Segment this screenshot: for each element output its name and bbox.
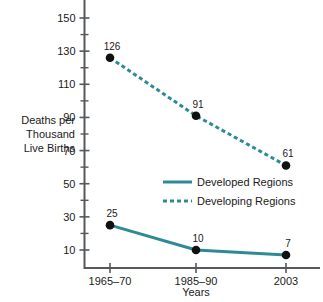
legend-label: Developing Regions	[197, 195, 296, 207]
data-point-label: 25	[106, 208, 118, 219]
x-axis-title: Years	[182, 286, 210, 298]
y-tick-label-50: 50	[63, 178, 75, 190]
data-point-label: 91	[192, 99, 204, 110]
x-tick-group: 1965–701985–902003	[89, 263, 299, 287]
x-tick-label-2: 2003	[274, 275, 298, 287]
data-point-marker	[282, 251, 291, 260]
data-point-label: 10	[192, 233, 204, 244]
legend-item-developing-regions: Developing Regions	[163, 195, 296, 207]
data-point-label: 7	[285, 238, 291, 249]
y-tick-label-30: 30	[63, 211, 75, 223]
x-tick-label-0: 1965–70	[89, 275, 132, 287]
y-tick-label-10: 10	[63, 244, 75, 256]
data-point-marker	[192, 111, 201, 120]
y-axis-title-line-2: Thousand	[26, 128, 75, 140]
infant-mortality-line-chart: 1030507090110130150 1965–701985–902003 D…	[0, 0, 323, 302]
legend-label: Developed Regions	[197, 176, 294, 188]
data-point-marker	[106, 221, 115, 230]
y-tick-label-130: 130	[57, 45, 75, 57]
series-developed-regions: 25107	[106, 208, 292, 259]
chart-canvas: 1030507090110130150 1965–701985–902003 D…	[0, 0, 323, 302]
data-point-marker	[282, 161, 291, 170]
series-layer: 251071269161	[104, 41, 294, 260]
chart-legend: Developed RegionsDeveloping Regions	[163, 176, 296, 207]
y-tick-label-110: 110	[58, 78, 76, 90]
y-axis-title-line-1: Deaths per	[21, 114, 75, 126]
data-point-marker	[192, 246, 201, 255]
series-line	[110, 58, 286, 166]
data-point-marker	[106, 53, 115, 62]
legend-item-developed-regions: Developed Regions	[163, 176, 294, 188]
data-point-label: 126	[104, 41, 121, 52]
y-tick-label-150: 150	[57, 12, 75, 24]
series-developing-regions: 1269161	[104, 41, 294, 170]
data-point-label: 61	[282, 148, 294, 159]
y-axis-title-line-3: Live Births	[24, 142, 76, 154]
y-axis-title: Deaths per Thousand Live Births	[21, 114, 75, 154]
